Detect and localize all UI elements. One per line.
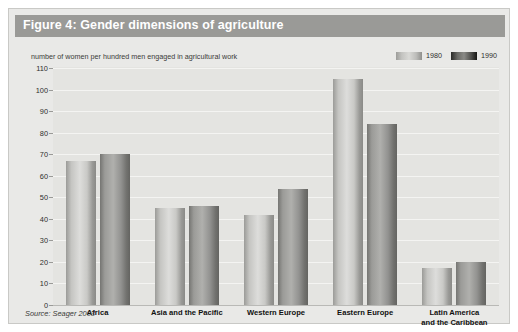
bar-group bbox=[142, 67, 231, 306]
y-axis-tick-label: 20 bbox=[40, 257, 48, 266]
y-axis-tick-label: 40 bbox=[40, 214, 48, 223]
y-axis-tick-label: 10 bbox=[40, 279, 48, 288]
bar-1980 bbox=[333, 79, 363, 305]
figure-panel: Figure 4: Gender dimensions of agricultu… bbox=[8, 8, 510, 324]
legend-swatch-icon bbox=[396, 52, 422, 60]
chart-legend: 19801990 bbox=[396, 51, 497, 60]
source-note: Source: Seager 2003 bbox=[25, 309, 95, 318]
legend-label: 1990 bbox=[481, 51, 497, 60]
legend-label: 1980 bbox=[426, 51, 442, 60]
category-label: Western Europe bbox=[231, 308, 320, 318]
bar-1980 bbox=[422, 268, 452, 305]
category-label: Asia and the Pacific bbox=[142, 308, 231, 318]
bar-1980 bbox=[66, 161, 96, 305]
category-label-line: Eastern Europe bbox=[321, 308, 410, 318]
legend-swatch-icon bbox=[451, 52, 477, 60]
y-axis-tick-label: 90 bbox=[40, 107, 48, 116]
bar-group bbox=[321, 67, 410, 306]
y-axis-tick-label: 110 bbox=[36, 63, 48, 72]
category-label: Eastern Europe bbox=[321, 308, 410, 318]
bar-1980 bbox=[155, 208, 185, 305]
category-label-line: Latin America bbox=[410, 308, 499, 318]
bar-group bbox=[53, 67, 142, 306]
chart-subtitle: number of women per hundred men engaged … bbox=[31, 52, 237, 61]
bar-group bbox=[410, 67, 499, 306]
bar-1990 bbox=[456, 262, 486, 305]
y-axis-tick-label: 30 bbox=[40, 236, 48, 245]
legend-entry-1980: 1980 bbox=[396, 51, 442, 60]
plot-area: 0102030405060708090100110 bbox=[53, 67, 499, 306]
category-label-line: and the Caribbean bbox=[410, 318, 499, 328]
y-axis-tick-label: 100 bbox=[36, 85, 48, 94]
category-label: Latin Americaand the Caribbean bbox=[410, 308, 499, 327]
category-label-line: Western Europe bbox=[231, 308, 320, 318]
bar-1980 bbox=[244, 215, 274, 305]
bar-groups bbox=[53, 67, 499, 306]
category-axis: AfricaAsia and the PacificWestern Europe… bbox=[53, 308, 499, 332]
figure-title-bar: Figure 4: Gender dimensions of agricultu… bbox=[15, 15, 505, 37]
legend-entry-1990: 1990 bbox=[451, 51, 497, 60]
y-axis-tick-label: 60 bbox=[40, 171, 48, 180]
page-title: Figure 4: Gender dimensions of agricultu… bbox=[23, 18, 284, 32]
y-axis-tick-label: 80 bbox=[40, 128, 48, 137]
bar-1990 bbox=[278, 189, 308, 305]
bar-1990 bbox=[367, 124, 397, 305]
y-axis-tick-label: 50 bbox=[40, 193, 48, 202]
y-axis-tick-label: 70 bbox=[40, 150, 48, 159]
bar-1990 bbox=[100, 154, 130, 305]
category-label-line: Asia and the Pacific bbox=[142, 308, 231, 318]
bar-1990 bbox=[189, 206, 219, 305]
bar-group bbox=[231, 67, 320, 306]
